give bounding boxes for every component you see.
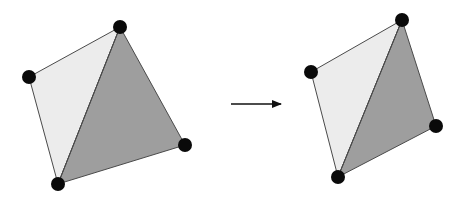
vertex-bottom: [331, 170, 345, 184]
vertex-left: [304, 65, 318, 79]
vertex-bottom: [51, 177, 65, 191]
diagram-canvas: [0, 0, 466, 204]
vertex-top: [395, 13, 409, 27]
vertex-top: [113, 20, 127, 34]
vertex-right: [429, 119, 443, 133]
vertex-left: [22, 70, 36, 84]
left-mesh: [22, 20, 192, 191]
mesh-transformation-diagram: [0, 0, 466, 204]
vertex-right: [178, 138, 192, 152]
right-mesh: [304, 13, 443, 184]
